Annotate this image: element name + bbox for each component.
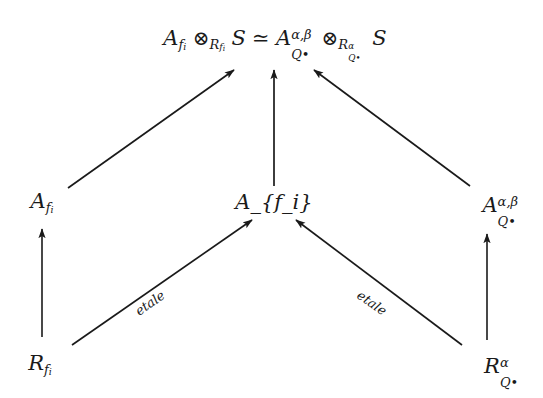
tensor-right-superscript-alpha: α bbox=[348, 42, 354, 51]
A-fi-subscript-i: i bbox=[50, 204, 53, 215]
isomorphism-symbol: ≃ bbox=[252, 26, 270, 50]
S-base: A_{f_i} bbox=[235, 190, 312, 214]
R-fi-subscript-i: i bbox=[49, 366, 52, 377]
AQ-superscript-alpha-beta: α,β bbox=[498, 194, 518, 207]
AQ-subscript-Q-bullet: Q• bbox=[498, 215, 516, 228]
node-R-fi: Rfi bbox=[28, 353, 52, 377]
tensor-subscript-i: i bbox=[223, 44, 225, 53]
arrow-Rfi-to-S bbox=[72, 220, 252, 345]
commutative-diagram: Afi⊗RfiS≃Aα,βQ•⊗RαQ•S Afi A_{f_i} Aα,βQ•… bbox=[0, 0, 543, 398]
subscript-i: i bbox=[183, 41, 186, 52]
tensor-right-subscript-R: R bbox=[338, 37, 348, 52]
symbol-S-left: S bbox=[231, 26, 245, 50]
node-top-isomorphism: Afi⊗RfiS≃Aα,βQ•⊗RαQ•S bbox=[163, 28, 386, 53]
symbol-A: A bbox=[163, 26, 178, 50]
node-S: A_{f_i} bbox=[235, 192, 312, 213]
node-A-fi: Afi bbox=[30, 191, 53, 215]
superscript-alpha-beta: α,β bbox=[291, 28, 311, 41]
tensor-subscript-R: R bbox=[209, 37, 219, 52]
symbol-S-right: S bbox=[372, 26, 386, 50]
RQ-subscript-Q-bullet: Q• bbox=[500, 376, 518, 389]
tensor-right-subscript-Q-bullet: Q• bbox=[348, 53, 360, 62]
RQ-base: R bbox=[484, 354, 500, 378]
subscript-Q-bullet: Q• bbox=[291, 48, 309, 61]
tensor-symbol: ⊗ bbox=[193, 26, 210, 50]
arrow-Afi-to-top bbox=[68, 70, 234, 188]
RQ-superscript-alpha: α bbox=[500, 355, 509, 368]
arrow-AQ-to-top bbox=[314, 70, 470, 186]
tensor-symbol-right: ⊗ bbox=[322, 26, 339, 50]
node-R-Q-alpha: RαQ• bbox=[484, 356, 500, 377]
node-A-Q-alpha-beta: Aα,βQ• bbox=[482, 195, 497, 216]
symbol-A-right: A bbox=[276, 26, 291, 50]
arrow-RQ-to-S bbox=[296, 220, 462, 345]
A-fi-base: A bbox=[30, 189, 45, 213]
AQ-base: A bbox=[482, 193, 497, 217]
R-fi-base: R bbox=[28, 351, 44, 375]
